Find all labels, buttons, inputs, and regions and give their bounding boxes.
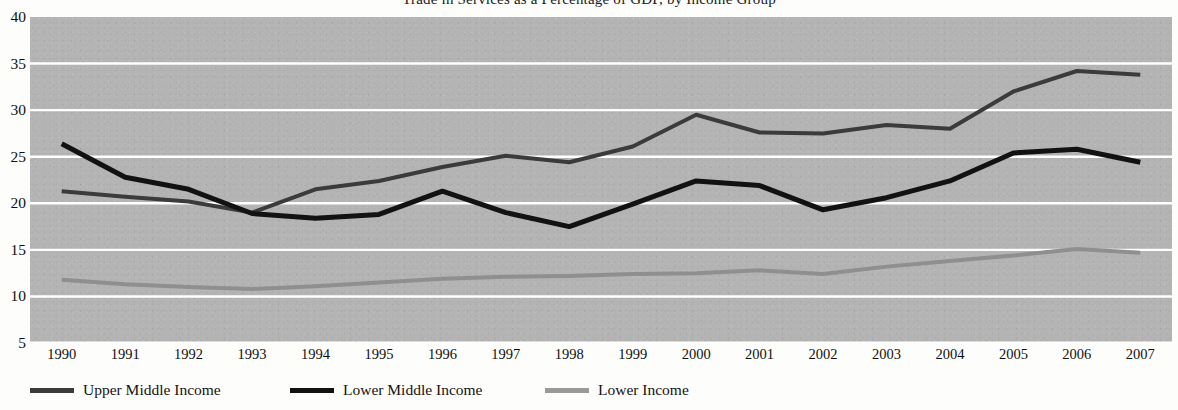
legend-label: Upper Middle Income [83,382,221,398]
legend-swatch-icon [545,388,589,393]
x-axis-tick-2002: 2002 [809,347,838,362]
x-axis-tick-2000: 2000 [682,347,711,362]
chart-title-text: Trade in Services as a Percentage of GDP… [402,0,776,6]
x-axis-tick-1990: 1990 [47,347,76,362]
legend-swatch-icon [30,388,74,393]
x-axis-tick-1997: 1997 [491,347,520,362]
x-axis-tick-1996: 1996 [428,347,457,362]
x-axis-tick-2007: 2007 [1126,347,1155,362]
line-chart: Trade in Services as a Percentage of GDP… [0,0,1178,410]
chart-legend: Upper Middle IncomeLower Middle IncomeLo… [0,378,1178,402]
legend-label: Lower Middle Income [343,382,482,398]
x-axis-tick-1994: 1994 [301,347,330,362]
x-axis-tick-1993: 1993 [238,347,267,362]
plot-area [30,17,1172,343]
legend-item-lower-income[interactable]: Lower Income [545,382,689,398]
x-axis-tick-1991: 1991 [111,347,140,362]
y-axis-tick-30: 30 [0,102,26,118]
legend-item-lower-middle-income[interactable]: Lower Middle Income [290,382,482,398]
legend-label: Lower Income [598,382,689,398]
x-axis: 1990199119921993199419951996199719981999… [30,347,1172,369]
y-axis-tick-20: 20 [0,196,26,212]
y-axis-tick-5: 5 [0,335,26,351]
x-axis-tick-1995: 1995 [364,347,393,362]
y-axis-tick-40: 40 [0,9,26,25]
y-axis-tick-25: 25 [0,149,26,165]
chart-title-clipped: Trade in Services as a Percentage of GDP… [0,0,1178,9]
x-axis-tick-2006: 2006 [1062,347,1091,362]
y-axis-tick-10: 10 [0,289,26,305]
y-axis: 510152025303540 [0,0,30,360]
x-axis-tick-1999: 1999 [618,347,647,362]
legend-swatch-icon [290,388,334,393]
x-axis-tick-2004: 2004 [935,347,964,362]
x-axis-tick-2005: 2005 [999,347,1028,362]
x-axis-tick-1998: 1998 [555,347,584,362]
series-line-upper-middle-income [62,71,1141,213]
legend-item-upper-middle-income[interactable]: Upper Middle Income [30,382,221,398]
plot-lines [30,17,1172,343]
y-axis-tick-15: 15 [0,242,26,258]
y-axis-tick-35: 35 [0,56,26,72]
x-axis-tick-2003: 2003 [872,347,901,362]
x-axis-tick-2001: 2001 [745,347,774,362]
x-axis-tick-1992: 1992 [174,347,203,362]
series-line-lower-income [62,249,1141,289]
